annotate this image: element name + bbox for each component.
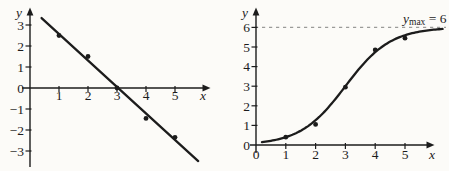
x-tick-label: 3 xyxy=(342,147,349,162)
y-tick-label: 0 xyxy=(243,138,250,153)
y-tick-label: 2 xyxy=(243,99,250,114)
y-tick-label: 3 xyxy=(243,79,250,94)
logistic-curve-plot-svg: ymax = 60123450123456xy xyxy=(225,0,449,171)
logistic-curve xyxy=(262,29,443,142)
data-point xyxy=(57,33,62,38)
x-tick-label: 2 xyxy=(312,147,319,162)
data-point xyxy=(343,85,348,90)
y-tick-label: 6 xyxy=(243,20,250,35)
x-tick-label: 1 xyxy=(56,88,63,103)
y-tick-label: 0 xyxy=(17,81,24,96)
x-tick-label: 4 xyxy=(372,147,379,162)
y-tick-label: 1 xyxy=(17,60,24,75)
y-tick-label: 1 xyxy=(243,118,250,133)
figure-canvas: 123453210−1−2−3xy ymax = 60123450123456x… xyxy=(0,0,449,171)
logistic-curve-plot: ymax = 60123450123456xy xyxy=(225,0,449,171)
data-point xyxy=(173,135,178,140)
x-axis-label: x xyxy=(428,147,435,162)
data-point xyxy=(313,122,318,127)
linear-fit-plot: 123453210−1−2−3xy xyxy=(0,0,225,171)
y-tick-label: −3 xyxy=(10,144,25,159)
data-point xyxy=(144,116,149,121)
x-tick-label: 1 xyxy=(282,147,289,162)
data-point xyxy=(373,48,378,53)
y-tick-label: 2 xyxy=(17,39,24,54)
x-tick-label: 2 xyxy=(85,88,92,103)
y-axis-arrow xyxy=(253,8,260,16)
data-point xyxy=(403,36,408,41)
x-tick-label: 5 xyxy=(172,88,179,103)
data-point xyxy=(115,86,120,91)
ymax-label: ymax = 6 xyxy=(401,11,447,28)
y-tick-label: 4 xyxy=(243,59,250,74)
y-tick-label: −1 xyxy=(10,102,24,117)
data-point xyxy=(283,135,288,140)
x-tick-label: 5 xyxy=(402,147,409,162)
y-axis-label: y xyxy=(14,5,22,20)
y-axis-arrow xyxy=(27,8,34,16)
y-axis-label: y xyxy=(240,5,248,20)
data-point xyxy=(86,54,91,59)
x-tick-label: 4 xyxy=(143,88,150,103)
x-tick-label: 0 xyxy=(253,147,260,162)
linear-fit-plot-svg: 123453210−1−2−3xy xyxy=(0,0,225,171)
y-tick-label: −2 xyxy=(10,123,24,138)
y-tick-label: 5 xyxy=(243,40,250,55)
x-axis-label: x xyxy=(199,88,206,103)
